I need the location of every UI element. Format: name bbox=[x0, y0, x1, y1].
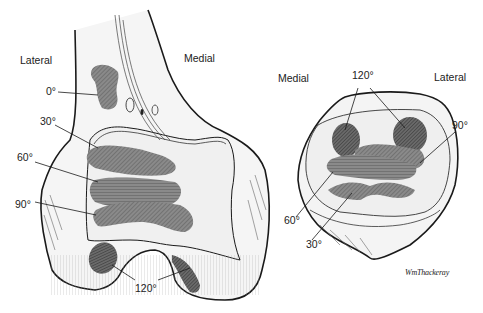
patella-drawing bbox=[296, 88, 458, 259]
femur-angle-90: 90° bbox=[15, 199, 31, 210]
patella-lateral-label: Lateral bbox=[434, 72, 466, 83]
patella-angle-120: 120° bbox=[352, 70, 374, 81]
femur-drawing bbox=[35, 10, 269, 300]
patella-angle-60: 60° bbox=[284, 215, 300, 226]
femur-angle-60: 60° bbox=[17, 152, 33, 163]
femur-angle-30: 30° bbox=[40, 116, 56, 127]
patella-angle-90: 90° bbox=[452, 120, 468, 131]
knee-contact-diagram: Lateral Medial 0° 30° 60° 90° 120° Media… bbox=[0, 0, 483, 313]
femur-angle-120: 120° bbox=[135, 283, 157, 294]
femur-medial-label: Medial bbox=[184, 53, 215, 64]
femur-angle-0: 0° bbox=[46, 86, 56, 97]
patella-medial-label: Medial bbox=[278, 73, 309, 84]
femur-lateral-label: Lateral bbox=[20, 55, 52, 66]
patella-angle-30: 30° bbox=[306, 239, 322, 250]
diagram-canvas bbox=[0, 0, 483, 313]
artist-signature: WmThackeray bbox=[405, 268, 449, 277]
